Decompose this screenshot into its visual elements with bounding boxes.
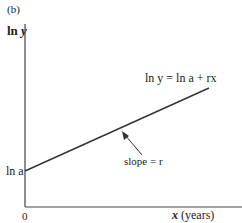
slope-arrow-shaft	[125, 135, 142, 155]
intercept-label: ln a	[6, 165, 24, 177]
origin-tick: 0	[22, 211, 28, 222]
line-equation: ln y = ln a + rx	[145, 72, 217, 84]
slope-annotation: slope = r	[124, 156, 163, 167]
panel-label: (b)	[7, 4, 20, 15]
y-axis-label: ln y	[7, 24, 27, 37]
regression-line	[25, 88, 209, 171]
chart-canvas	[0, 0, 242, 223]
x-axis-label: x (years)	[172, 209, 214, 221]
